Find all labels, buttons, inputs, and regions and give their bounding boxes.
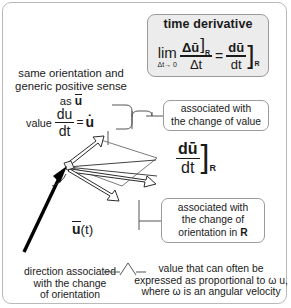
vector-diagram xyxy=(0,0,291,308)
arrow-u-of-t xyxy=(24,166,67,252)
